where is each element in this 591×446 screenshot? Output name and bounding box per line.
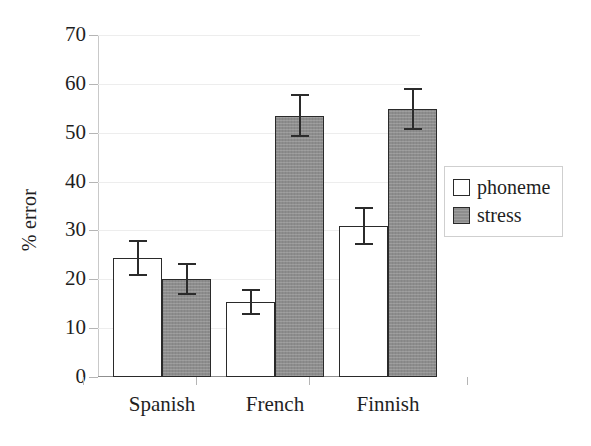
bar-french-phoneme — [226, 302, 275, 377]
legend-item-label: stress — [477, 205, 521, 225]
bar-spanish-phoneme — [113, 258, 162, 377]
x-axis-category-label: Finnish — [356, 392, 419, 417]
y-axis-tick-label: 30 — [65, 217, 86, 242]
y-axis-tick — [89, 182, 98, 183]
y-axis-tick — [89, 133, 98, 134]
gridline — [98, 35, 420, 36]
y-axis-tick-label: 10 — [65, 315, 86, 340]
error-bar-cap-upper — [242, 289, 260, 291]
gridline — [98, 84, 420, 85]
y-axis-tick — [89, 328, 98, 329]
x-axis-category-label: Spanish — [129, 392, 196, 417]
error-bar-cap-upper — [404, 88, 422, 90]
y-axis-tick-label: 70 — [65, 22, 86, 47]
y-axis-tick-label: 40 — [65, 169, 86, 194]
error-bar-cap-upper — [291, 94, 309, 96]
x-axis-tick — [309, 377, 310, 385]
error-bar-cap-upper — [178, 263, 196, 265]
y-axis-tick — [89, 35, 98, 36]
y-axis-tick-label: 50 — [65, 120, 86, 145]
gridline — [98, 182, 420, 183]
y-axis-tick — [89, 230, 98, 231]
bar-spanish-stress — [162, 279, 211, 377]
legend-item-phoneme: phoneme — [453, 173, 550, 201]
y-axis-tick-label: 20 — [65, 266, 86, 291]
bar-french-stress — [275, 116, 324, 377]
error-bar-cap-upper — [129, 240, 147, 242]
filled-square-icon — [453, 207, 470, 224]
y-axis-label-text: % error — [18, 150, 41, 290]
y-axis-tick-label: 60 — [65, 71, 86, 96]
error-bar-cap-upper — [355, 207, 373, 209]
y-axis-tick — [89, 84, 98, 85]
x-axis-tick — [83, 377, 84, 385]
x-axis-tick — [196, 377, 197, 385]
legend-item-label: phoneme — [477, 177, 550, 197]
chart-legend: phoneme stress — [444, 166, 563, 237]
legend-item-stress: stress — [453, 201, 550, 229]
y-axis-tick — [89, 279, 98, 280]
y-axis-line — [98, 35, 99, 377]
gridline — [98, 133, 420, 134]
bar-finnish-stress — [388, 109, 437, 377]
y-axis-tick — [89, 377, 98, 378]
bar-finnish-phoneme — [339, 226, 388, 377]
y-axis-label: % error — [4, 10, 27, 150]
open-square-icon — [453, 179, 470, 196]
plot-area: 010203040506070 — [98, 35, 420, 377]
x-axis-category-label: French — [246, 392, 304, 417]
x-axis-tick — [467, 377, 468, 385]
y-axis-tick-label: 0 — [76, 364, 87, 389]
bar-chart-figure: % error 010203040506070 SpanishFrenchFin… — [0, 0, 591, 446]
